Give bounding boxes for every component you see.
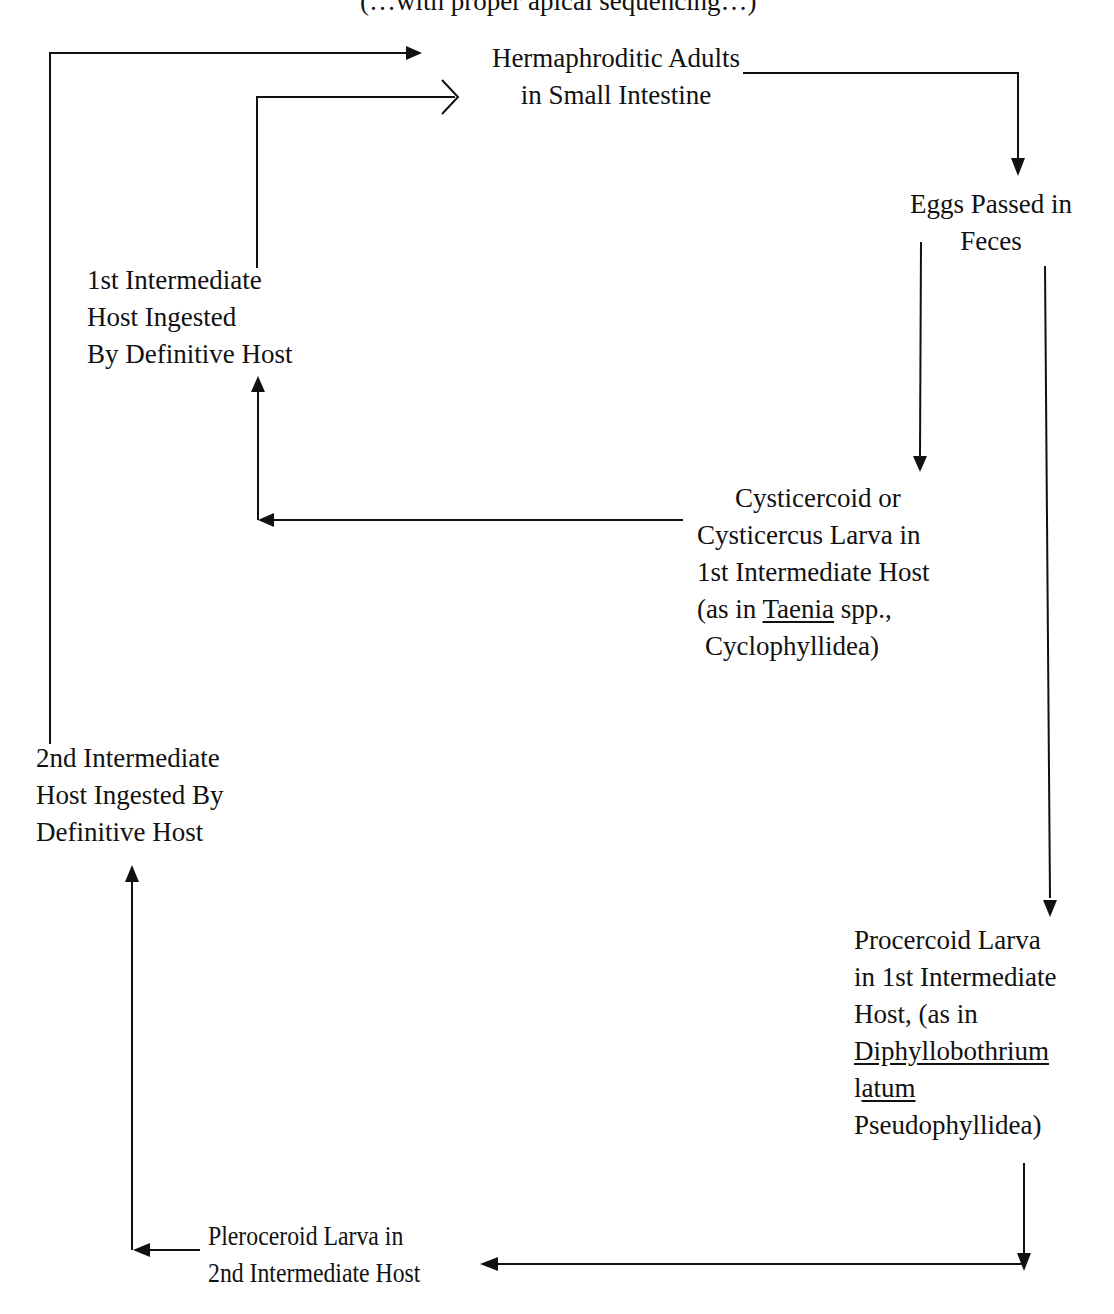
node-line: 1st Intermediate: [87, 262, 292, 299]
node-line: 2nd Intermediate Host: [208, 1255, 420, 1292]
genus-diphyllobothrium: Diphyllobothrium: [854, 1036, 1049, 1066]
species-prefix: l: [854, 1073, 862, 1103]
edge-first-host-to-adults: [257, 97, 455, 268]
node-line: Pseudophyllidea): [854, 1107, 1056, 1144]
arrowhead-down-icon: [1011, 158, 1025, 176]
text-suffix: spp.,: [834, 594, 892, 624]
node-line: Host, (as in: [854, 996, 1056, 1033]
node-line: Definitive Host: [36, 814, 223, 851]
arrowhead-left-icon: [258, 513, 274, 527]
edge-eggs-to-cysticercoid: [920, 242, 921, 458]
node-second-host-ingested: 2nd Intermediate Host Ingested By Defini…: [36, 740, 223, 851]
arrowhead-up-icon: [251, 376, 265, 392]
node-cysticercoid-larva: Cysticercoid or Cysticercus Larva in 1st…: [697, 480, 929, 665]
node-line: Pleroceroid Larva in: [208, 1218, 420, 1255]
node-eggs-passed: Eggs Passed in Feces: [888, 186, 1094, 260]
arrowhead-left-icon: [133, 1243, 150, 1257]
node-line: Hermaphroditic Adults: [466, 40, 766, 77]
node-line: Cysticercoid or: [697, 480, 929, 517]
node-pleroceroid-larva: Pleroceroid Larva in 2nd Intermediate Ho…: [208, 1218, 420, 1292]
node-line: 1st Intermediate Host: [697, 554, 929, 591]
arrowhead-up-icon: [125, 865, 139, 882]
genus-taenia: Taenia: [763, 594, 835, 624]
edge-second-host-to-adults: [50, 53, 410, 744]
node-line: latum: [854, 1070, 1056, 1107]
edge-eggs-to-procercoid: [1045, 266, 1050, 898]
arrowhead-down-icon: [913, 456, 927, 472]
species-latum: atum: [862, 1073, 916, 1103]
node-line: Host Ingested By: [36, 777, 223, 814]
node-line: Host Ingested: [87, 299, 292, 336]
node-line: 2nd Intermediate: [36, 740, 223, 777]
node-line: Procercoid Larva: [854, 922, 1056, 959]
node-line: Diphyllobothrium: [854, 1033, 1056, 1070]
arrowhead-down-icon: [1043, 900, 1057, 917]
node-line: Cyclophyllidea): [697, 628, 929, 665]
node-line: (as in Taenia spp.,: [697, 591, 929, 628]
node-line: in Small Intestine: [466, 77, 766, 114]
node-line: By Definitive Host: [87, 336, 292, 373]
node-first-host-ingested: 1st Intermediate Host Ingested By Defini…: [87, 262, 292, 373]
node-procercoid-larva: Procercoid Larva in 1st Intermediate Hos…: [854, 922, 1056, 1144]
node-hermaphroditic-adults: Hermaphroditic Adults in Small Intestine: [466, 40, 766, 114]
node-line: Eggs Passed in: [888, 186, 1094, 223]
node-line: in 1st Intermediate: [854, 959, 1056, 996]
edge-adults-to-eggs: [743, 73, 1018, 160]
arrowhead-down-icon: [1017, 1253, 1031, 1271]
node-line: Feces: [888, 223, 1094, 260]
arrowhead-right-icon: [406, 46, 422, 60]
arrowhead-left-icon: [480, 1257, 498, 1271]
text-prefix: (as in: [697, 594, 763, 624]
node-line: Cysticercus Larva in: [697, 517, 929, 554]
